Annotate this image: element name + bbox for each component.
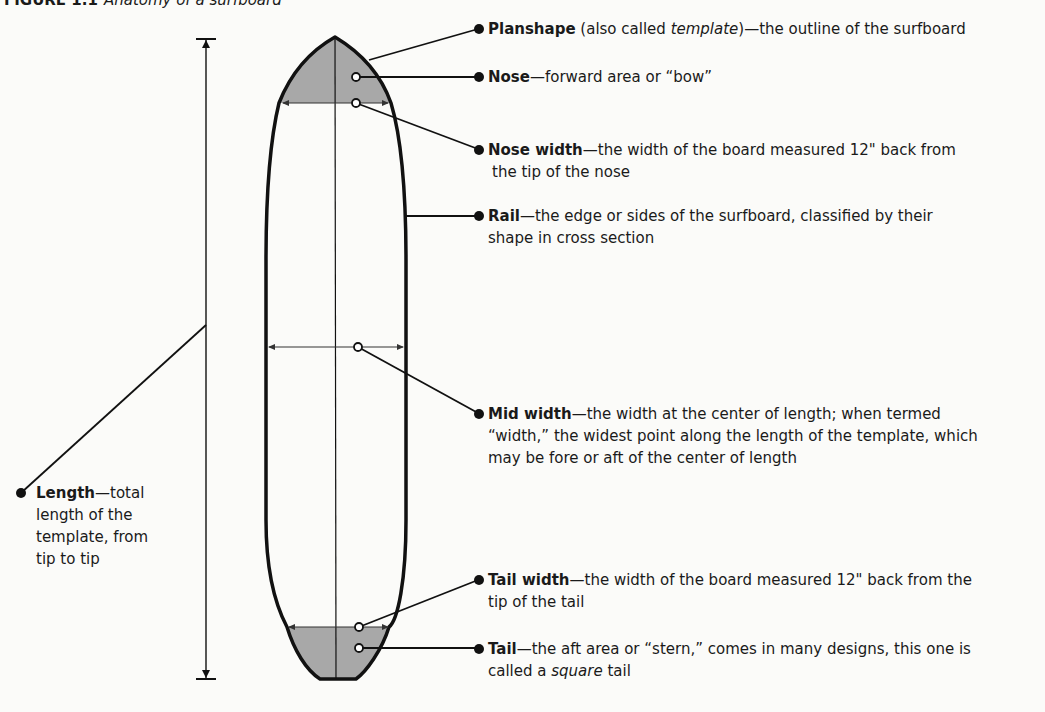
tail-width-label: Tail width—the width of the board measur… [488,569,972,613]
nose-label: Nose—forward area or “bow” [488,66,712,88]
tail-shaded-area [287,627,389,679]
length-term: Length [36,484,95,502]
mid-width-anchor-point [354,343,362,351]
planshape-term: Planshape [488,20,576,38]
mid-width-bullet [474,409,484,419]
nose-width-bullet [474,145,484,155]
tail-label: Tail—the aft area or “stern,” comes in m… [488,638,971,682]
stringer-line [335,37,336,679]
length-bullet [16,488,26,498]
anchor-points [352,73,363,652]
tail-anchor-point [355,644,363,652]
rail-term: Rail [488,207,520,225]
length-dimension-line [196,39,216,679]
planshape-label: Planshape (also called template)—the out… [488,18,966,40]
nose-width-term: Nose width [488,141,583,159]
tail-bullet [474,644,484,654]
nose-width-anchor-point [352,99,360,107]
nose-anchor-point [352,73,360,81]
nose-width-label: Nose width—the width of the board measur… [488,139,956,183]
nose-bullet [474,72,484,82]
planshape-bullet [474,24,484,34]
tail-width-bullet [474,575,484,585]
tail-width-term: Tail width [488,571,570,589]
mid-width-label: Mid width—the width at the center of len… [488,403,978,469]
tail-width-anchor-point [355,623,363,631]
rail-bullet [474,211,484,221]
tail-term: Tail [488,640,517,658]
rail-label: Rail—the edge or sides of the surfboard,… [488,205,933,249]
length-label: Length—total length of the template, fro… [36,482,148,570]
mid-width-term: Mid width [488,405,572,423]
nose-term: Nose [488,68,530,86]
